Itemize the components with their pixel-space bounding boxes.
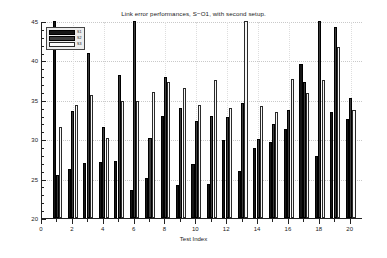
y-tick [41, 187, 44, 188]
legend-item-s1: S1 [49, 30, 82, 35]
y-tick [41, 156, 44, 157]
x-tick [334, 219, 335, 222]
y-tick [41, 54, 44, 55]
bar-s3-test-14 [260, 106, 263, 218]
x-tick [87, 219, 88, 222]
legend-swatch-s2 [49, 36, 75, 41]
x-tick-label: 0 [39, 226, 42, 232]
x-tick [103, 219, 104, 224]
y-tick-label: 45 [31, 19, 38, 25]
y-tick [41, 140, 46, 141]
y-tick [41, 164, 44, 165]
y-tick [41, 93, 44, 94]
x-tick [134, 219, 135, 224]
legend-swatch-s1 [49, 30, 75, 35]
y-tick [41, 38, 44, 39]
y-tick [41, 85, 44, 86]
x-tick [272, 219, 273, 222]
x-tick [350, 219, 351, 224]
bar-s3-test-17 [306, 93, 309, 218]
bar-s3-test-10 [198, 105, 201, 218]
bar-s3-test-13 [244, 21, 247, 218]
legend-item-s3: S3 [49, 42, 82, 47]
y-tick [41, 211, 44, 212]
y-tick [41, 61, 46, 62]
y-tick-label: 20 [31, 216, 38, 222]
bar-s3-test-20 [352, 110, 355, 218]
x-tick-label: 12 [223, 226, 230, 232]
legend-label-s1: S1 [77, 30, 81, 35]
x-tick [164, 219, 165, 224]
bar-s3-test-1 [59, 127, 62, 218]
x-tick-label: 2 [70, 226, 73, 232]
bar-s3-test-5 [121, 101, 124, 218]
y-tick [41, 195, 44, 196]
bar-s3-test-3 [90, 95, 93, 218]
bar-s3-test-15 [275, 112, 278, 218]
y-tick-label: 40 [31, 58, 38, 64]
y-tick [41, 117, 44, 118]
bar-series-layer [42, 22, 362, 218]
y-tick [41, 109, 44, 110]
y-tick [41, 46, 44, 47]
y-tick-label: 30 [31, 137, 38, 143]
x-tick [72, 219, 73, 224]
chart-title: Link error performances, S−O1, with seco… [0, 10, 387, 17]
y-tick [41, 22, 46, 23]
legend-swatch-s3 [49, 42, 75, 47]
x-tick [118, 219, 119, 222]
y-tick [41, 172, 44, 173]
x-tick [226, 219, 227, 224]
legend-label-s3: S3 [77, 42, 81, 47]
chart-legend: S1 S2 S3 [46, 27, 85, 50]
y-tick [41, 69, 44, 70]
x-tick [288, 219, 289, 224]
x-tick-label: 4 [101, 226, 104, 232]
x-tick-label: 6 [132, 226, 135, 232]
x-tick-label: 10 [192, 226, 199, 232]
x-tick [56, 219, 57, 222]
y-tick [41, 132, 44, 133]
legend-item-s2: S2 [49, 36, 82, 41]
y-tick [41, 180, 46, 181]
x-tick-label: 14 [254, 226, 261, 232]
y-tick [41, 30, 44, 31]
chart-figure: Link error performances, S−O1, with seco… [0, 0, 387, 258]
plot-area [41, 22, 362, 219]
x-tick [41, 219, 42, 224]
bar-s3-test-4 [106, 138, 109, 218]
x-tick-label: 16 [285, 226, 292, 232]
bar-s3-test-19 [337, 47, 340, 218]
bar-s3-test-18 [322, 80, 325, 218]
x-tick [195, 219, 196, 224]
bar-s3-test-16 [291, 79, 294, 218]
y-tick [41, 77, 44, 78]
x-tick-label: 8 [163, 226, 166, 232]
y-tick [41, 148, 44, 149]
x-tick [319, 219, 320, 224]
legend-label-s2: S2 [77, 36, 81, 41]
x-tick [257, 219, 258, 224]
x-tick [149, 219, 150, 222]
bar-s3-test-8 [167, 82, 170, 218]
x-tick [211, 219, 212, 222]
y-tick [41, 101, 46, 102]
x-tick [180, 219, 181, 222]
x-tick [303, 219, 304, 222]
y-tick-label: 35 [31, 98, 38, 104]
bar-s3-test-11 [214, 80, 217, 218]
bar-s3-test-9 [183, 88, 186, 218]
bar-s3-test-7 [152, 92, 155, 218]
bar-s3-test-12 [229, 108, 232, 218]
x-axis-label: Test Index [0, 236, 387, 242]
bar-s3-test-6 [136, 101, 139, 218]
y-tick [41, 203, 44, 204]
x-tick [242, 219, 243, 222]
bar-s3-test-2 [75, 105, 78, 218]
y-tick [41, 124, 44, 125]
y-tick-label: 25 [31, 177, 38, 183]
x-tick-label: 20 [346, 226, 353, 232]
x-tick-label: 18 [315, 226, 322, 232]
